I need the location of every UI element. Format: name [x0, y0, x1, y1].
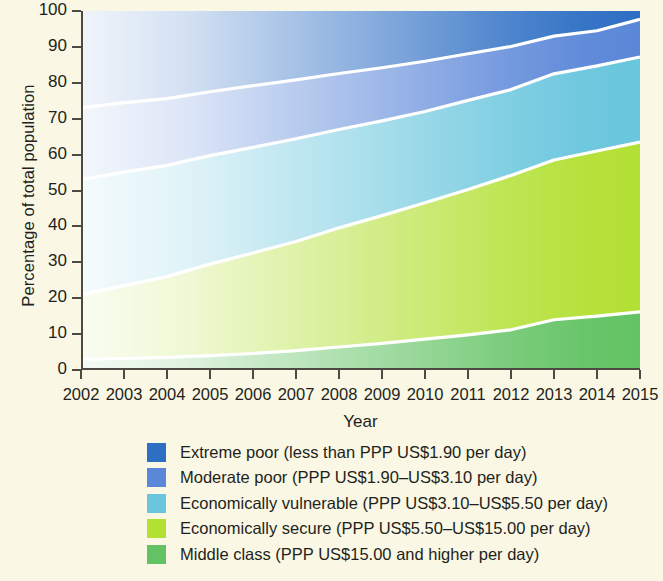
chart-legend: Extreme poor (less than PPP US$1.90 per … [147, 440, 647, 568]
legend-item: Moderate poor (PPP US$1.90–US$3.10 per d… [147, 466, 647, 490]
legend-color-swatch-icon [147, 468, 166, 487]
x-tick-mark [553, 370, 555, 379]
x-tick-mark [209, 370, 211, 379]
x-tick-mark [295, 370, 297, 379]
x-tick-label: 2015 [610, 385, 663, 404]
y-tick-label: 10 [15, 323, 67, 343]
y-tick-label: 50 [15, 180, 67, 200]
legend-item-label: Economically vulnerable (PPP US$3.10–US$… [180, 494, 608, 513]
legend-item: Economically vulnerable (PPP US$3.10–US$… [147, 491, 647, 515]
legend-color-swatch-icon [147, 443, 166, 462]
legend-color-swatch-icon [147, 519, 166, 538]
x-tick-mark [424, 370, 426, 379]
x-tick-mark [467, 370, 469, 379]
y-tick-mark [72, 190, 81, 192]
legend-item-label: Extreme poor (less than PPP US$1.90 per … [180, 443, 526, 462]
area-bands [81, 11, 640, 370]
y-tick-mark [72, 46, 81, 48]
y-tick-mark [72, 118, 81, 120]
x-tick-mark [123, 370, 125, 379]
y-tick-label: 40 [15, 215, 67, 235]
x-axis-title: Year [81, 412, 640, 432]
x-tick-mark [80, 370, 82, 379]
y-tick-mark [72, 154, 81, 156]
y-tick-mark [72, 333, 81, 335]
x-tick-mark [166, 370, 168, 379]
y-tick-mark [72, 10, 81, 12]
y-tick-label: 0 [15, 359, 67, 379]
area-bands-svg [81, 11, 640, 370]
y-tick-label: 100 [15, 0, 67, 20]
x-tick-mark [381, 370, 383, 379]
y-tick-mark [72, 261, 81, 263]
legend-item: Extreme poor (less than PPP US$1.90 per … [147, 440, 647, 464]
plot-area: 2002200320042005200620072008200920102011… [81, 11, 640, 370]
y-tick-mark [72, 82, 81, 84]
y-tick-mark [72, 297, 81, 299]
legend-color-swatch-icon [147, 545, 166, 564]
y-tick-label: 90 [15, 36, 67, 56]
legend-item-label: Middle class (PPP US$15.00 and higher pe… [180, 545, 539, 564]
y-tick-label: 20 [15, 287, 67, 307]
x-tick-mark [639, 370, 641, 379]
legend-item: Economically secure (PPP US$5.50–US$15.0… [147, 517, 647, 541]
fade-overlay [81, 11, 640, 370]
y-tick-label: 30 [15, 251, 67, 271]
legend-item-label: Economically secure (PPP US$5.50–US$15.0… [180, 519, 591, 538]
y-tick-mark [72, 225, 81, 227]
y-tick-label: 70 [15, 108, 67, 128]
x-tick-mark [510, 370, 512, 379]
x-tick-mark [596, 370, 598, 379]
x-tick-mark [252, 370, 254, 379]
y-tick-label: 80 [15, 72, 67, 92]
y-tick-label: 60 [15, 144, 67, 164]
legend-color-swatch-icon [147, 494, 166, 513]
legend-item: Middle class (PPP US$15.00 and higher pe… [147, 542, 647, 566]
legend-item-label: Moderate poor (PPP US$1.90–US$3.10 per d… [180, 468, 537, 487]
x-tick-mark [338, 370, 340, 379]
